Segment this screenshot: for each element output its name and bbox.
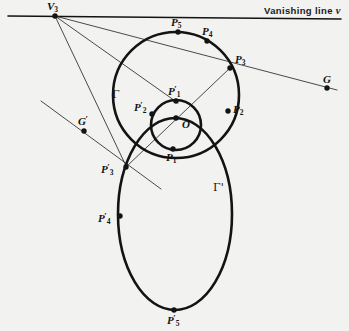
label-point-Gp: G′ [78, 115, 88, 127]
label-point-G: G [323, 74, 331, 85]
vanishing-line-label: Vanishing line v [264, 5, 341, 16]
point-P2[interactable] [225, 108, 230, 113]
point-V3[interactable] [52, 13, 57, 18]
label-point-P4: P4 [202, 26, 212, 38]
label-curve-gamma-prime: Γ' [213, 182, 224, 193]
point-G[interactable] [324, 85, 329, 90]
geometry-figure: Vanishing line v V3GP5P4P3P2P1P′1P′2P′3P… [0, 0, 349, 331]
diagram-canvas [0, 0, 349, 331]
point-P3p[interactable] [123, 164, 128, 169]
label-point-P1: P1 [166, 152, 176, 164]
label-point-P1p: P′1 [168, 85, 181, 99]
label-point-V3: V3 [47, 1, 58, 13]
label-point-P5: P5 [171, 17, 181, 29]
label-point-P2: P2 [233, 104, 243, 116]
label-curve-gamma: Γ [112, 89, 120, 100]
label-point-P3: P3 [235, 54, 245, 66]
label-point-P4p: P′4 [98, 212, 111, 226]
point-P5[interactable] [175, 29, 180, 34]
curve-gamma-prime [118, 118, 232, 310]
point-P4p[interactable] [117, 213, 122, 218]
point-P5p[interactable] [171, 307, 176, 312]
curve-gamma-prime-small [151, 100, 201, 150]
label-point-P5p: P′5 [167, 314, 180, 328]
point-P4[interactable] [204, 38, 209, 43]
point-P3[interactable] [227, 65, 232, 70]
line-v3-to-G [55, 16, 337, 90]
point-P2p[interactable] [149, 111, 154, 116]
label-point-P2p: P′2 [134, 101, 147, 115]
label-point-P3p: P′3 [101, 163, 114, 177]
point-O[interactable] [173, 115, 178, 120]
point-Gp[interactable] [81, 128, 86, 133]
label-point-O: O [182, 119, 190, 130]
